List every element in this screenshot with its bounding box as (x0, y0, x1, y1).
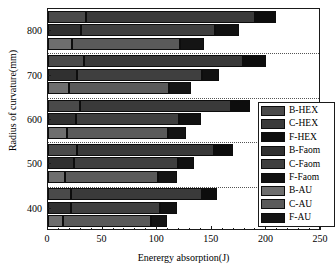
y-tick-label-400: 400 (0, 202, 42, 213)
x-tick-label: 250 (313, 233, 328, 244)
legend-item-C-Faom[interactable]: C-Faom (259, 158, 334, 171)
y-axis-title: Radius of curvature(mm) (7, 26, 18, 176)
bar-500-AU (48, 171, 177, 183)
legend-label: F-Faom (289, 173, 319, 183)
bar-segment-F-Faom (160, 202, 176, 214)
bar-segment-F-AU (180, 38, 204, 50)
bar-segment-C-AU (63, 215, 150, 227)
bar-segment-C-AU (65, 171, 158, 183)
legend-swatch-B-AU (261, 186, 285, 196)
y-tick-mark (47, 163, 51, 164)
x-minor-tick (69, 228, 70, 230)
bar-segment-B-HEX (48, 144, 77, 156)
bar-segment-F-Faom (178, 157, 194, 169)
bar-600-Faom (48, 113, 201, 125)
bar-segment-B-Faom (48, 157, 74, 169)
bar-segment-F-HEX (202, 188, 217, 200)
x-tick-mark (102, 226, 103, 230)
legend-swatch-F-AU (261, 213, 285, 223)
x-tick-mark (320, 226, 321, 230)
bar-400-AU (48, 215, 167, 227)
legend-swatch-F-Faom (261, 173, 285, 183)
legend-swatch-B-Faom (261, 146, 285, 156)
bar-400-HEX (48, 188, 217, 200)
x-minor-tick (309, 228, 310, 230)
bar-segment-B-HEX (48, 55, 84, 67)
bar-segment-F-AU (168, 127, 185, 139)
legend-item-B-HEX[interactable]: B-HEX (259, 104, 334, 117)
legend-label: C-HEX (289, 119, 318, 129)
bar-700-Faom (48, 69, 219, 81)
legend-item-C-HEX[interactable]: C-HEX (259, 117, 334, 130)
bar-segment-C-Faom (74, 157, 178, 169)
legend-item-B-Faom[interactable]: B-Faom (259, 144, 334, 157)
bar-segment-C-Faom (71, 202, 161, 214)
bar-segment-F-AU (158, 171, 177, 183)
x-minor-tick (287, 228, 288, 230)
bar-segment-F-AU (169, 82, 191, 94)
x-minor-tick (167, 228, 168, 230)
x-minor-tick (113, 228, 114, 230)
bar-800-HEX (48, 11, 276, 23)
bar-segment-B-AU (48, 82, 69, 94)
legend-swatch-C-HEX (261, 119, 285, 129)
legend-swatch-B-HEX (261, 106, 285, 116)
bar-600-HEX (48, 100, 250, 112)
y-tick-label-700: 700 (0, 69, 42, 80)
legend-item-F-Faom[interactable]: F-Faom (259, 171, 334, 184)
x-minor-tick (189, 228, 190, 230)
legend-label: F-HEX (289, 133, 317, 143)
x-minor-tick (134, 228, 135, 230)
x-minor-tick (58, 228, 59, 230)
legend: B-HEXC-HEXF-HEXB-FaomC-FaomF-FaomB-AUC-A… (258, 102, 335, 227)
x-axis-title: Enerergy absorption(J) (47, 252, 320, 263)
bar-segment-B-AU (48, 127, 67, 139)
bar-segment-F-HEX (214, 144, 233, 156)
y-tick-label-600: 600 (0, 114, 42, 125)
bar-segment-C-HEX (71, 188, 202, 200)
bar-segment-F-HEX (243, 55, 266, 67)
bar-segment-C-Faom (76, 113, 179, 125)
bar-500-Faom (48, 157, 194, 169)
bar-segment-B-HEX (48, 11, 86, 23)
x-minor-tick (222, 228, 223, 230)
x-minor-tick (178, 228, 179, 230)
bar-segment-B-Faom (48, 69, 77, 81)
chart-figure: Radius of curvature(mm) 0501001502002508… (0, 0, 336, 273)
bar-segment-C-AU (69, 82, 169, 94)
bar-segment-C-AU (72, 38, 180, 50)
x-tick-label: 150 (203, 233, 218, 244)
bar-800-Faom (48, 24, 239, 36)
bar-segment-F-Faom (215, 24, 239, 36)
y-tick-mark (47, 75, 51, 76)
legend-label: B-Faom (289, 146, 320, 156)
bar-segment-B-Faom (48, 113, 76, 125)
bar-segment-F-HEX (255, 11, 276, 23)
y-tick-label-800: 800 (0, 25, 42, 36)
x-minor-tick (80, 228, 81, 230)
bar-segment-B-Faom (48, 202, 71, 214)
legend-swatch-C-Faom (261, 159, 285, 169)
bar-segment-B-Faom (48, 24, 81, 36)
x-tick-label: 100 (149, 233, 164, 244)
x-tick-label: 200 (258, 233, 273, 244)
legend-item-F-AU[interactable]: F-AU (259, 211, 334, 224)
x-minor-tick (298, 228, 299, 230)
bar-segment-F-AU (151, 215, 167, 227)
x-tick-label: 50 (97, 233, 107, 244)
legend-label: C-AU (289, 200, 312, 210)
bar-segment-B-HEX (48, 100, 80, 112)
x-minor-tick (244, 228, 245, 230)
bar-segment-C-AU (67, 127, 169, 139)
legend-item-B-AU[interactable]: B-AU (259, 184, 334, 197)
bar-400-Faom (48, 202, 177, 214)
legend-item-C-AU[interactable]: C-AU (259, 198, 334, 211)
bar-segment-C-HEX (84, 55, 243, 67)
legend-label: B-AU (289, 186, 312, 196)
bar-segment-F-HEX (231, 100, 250, 112)
bar-segment-C-Faom (81, 24, 215, 36)
bar-700-AU (48, 82, 191, 94)
bar-800-AU (48, 38, 204, 50)
y-tick-mark (47, 119, 51, 120)
legend-item-F-HEX[interactable]: F-HEX (259, 131, 334, 144)
